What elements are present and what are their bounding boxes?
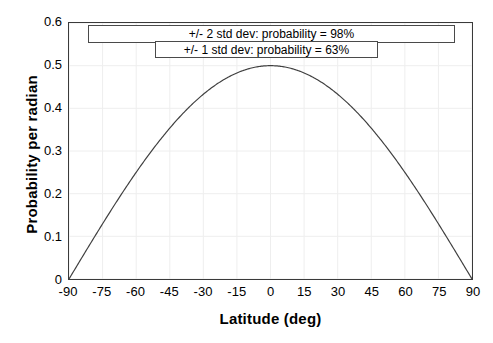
x-axis-title: Latitude (deg) <box>68 310 473 327</box>
x-tick-label: -45 <box>146 285 192 299</box>
x-tick-label: -15 <box>214 285 260 299</box>
x-tick-label: 0 <box>248 285 294 299</box>
probability-density-curve <box>69 23 472 279</box>
x-tick-label: 90 <box>450 285 493 299</box>
x-tick-label: 60 <box>383 285 429 299</box>
y-axis-title: Probability per radian <box>23 26 40 284</box>
x-tick-label: -60 <box>113 285 159 299</box>
x-tick-label: 30 <box>315 285 361 299</box>
chart-figure: 00.10.20.30.40.50.6 -90-75-60-45-30-1501… <box>0 0 493 343</box>
x-tick-label: 15 <box>281 285 327 299</box>
x-tick-label: 45 <box>349 285 395 299</box>
plot-area <box>68 22 473 280</box>
x-tick-label: 75 <box>416 285 462 299</box>
x-tick-label: -75 <box>79 285 125 299</box>
annotation-1-std-dev: +/- 1 std dev: probability = 63% <box>155 41 378 58</box>
x-tick-label: -90 <box>45 285 91 299</box>
x-tick-label: -30 <box>180 285 226 299</box>
